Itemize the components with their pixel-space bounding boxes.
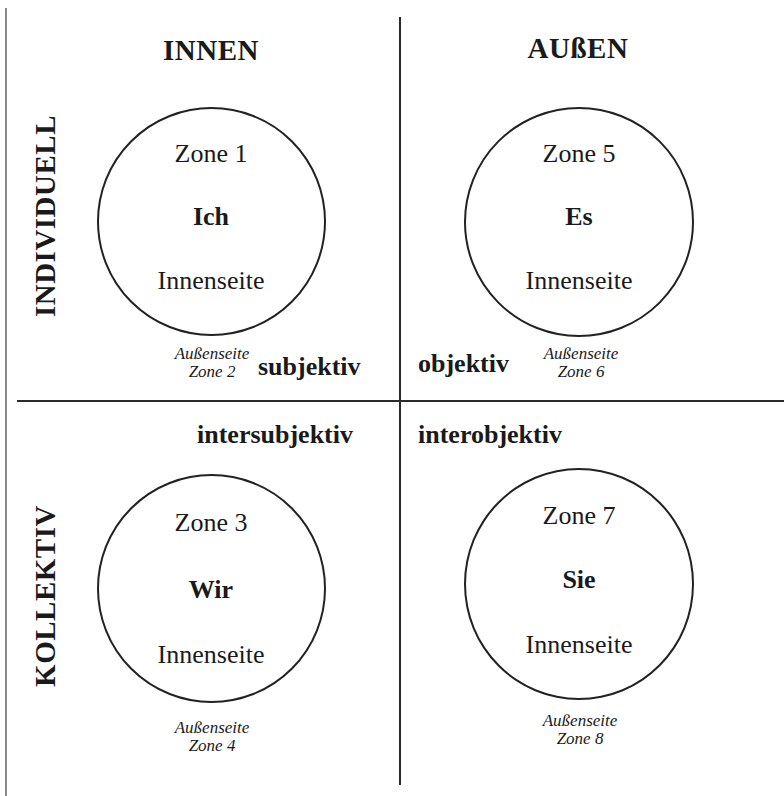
zone-outer-label: Zone 6 (521, 363, 641, 381)
outer-side-text: Außenseite (520, 712, 640, 730)
outer-side-label: Außenseite Zone 8 (520, 712, 640, 748)
outer-side-label: Außenseite Zone 4 (152, 719, 272, 755)
zone-outer-label: Zone 8 (520, 730, 640, 748)
row-header-kollektiv: KOLLEKTIV (27, 496, 63, 696)
zone-inner-label: Zone 3 (91, 508, 331, 538)
outer-side-text: Außenseite (152, 719, 272, 737)
inner-side-label: Innenseite (91, 266, 331, 296)
pronoun-label: Ich (91, 202, 331, 232)
column-header-innen: INNEN (111, 34, 311, 67)
zone-inner-label: Zone 1 (91, 139, 331, 169)
zone-inner-label: Zone 5 (459, 139, 699, 169)
perspective-label-intersubjektiv: intersubjektiv (197, 420, 353, 450)
perspective-label-interobjektiv: interobjektiv (418, 420, 562, 450)
outer-side-text: Außenseite (152, 345, 272, 363)
pronoun-label: Es (459, 202, 699, 232)
row-header-individuell: INDIVIDUELL (27, 101, 63, 331)
zone-outer-label: Zone 4 (152, 737, 272, 755)
left-border-line (5, 8, 7, 796)
perspective-label-objektiv: objektiv (418, 349, 509, 379)
outer-side-label: Außenseite Zone 6 (521, 345, 641, 381)
inner-side-label: Innenseite (459, 266, 699, 296)
column-header-aussen: AUßEN (478, 32, 678, 65)
outer-side-text: Außenseite (521, 345, 641, 363)
inner-side-label: Innenseite (91, 640, 331, 670)
zone-outer-label: Zone 2 (152, 363, 272, 381)
inner-side-label: Innenseite (459, 630, 699, 660)
pronoun-label: Wir (91, 575, 331, 605)
pronoun-label: Sie (459, 565, 699, 595)
horizontal-divider (17, 400, 784, 402)
zone-inner-label: Zone 7 (459, 501, 699, 531)
perspective-label-subjektiv: subjektiv (258, 352, 361, 382)
outer-side-label: Außenseite Zone 2 (152, 345, 272, 381)
